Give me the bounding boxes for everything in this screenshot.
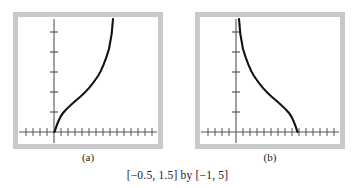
panel-a-plot xyxy=(13,12,163,149)
graph-panel-a xyxy=(13,12,163,149)
figure-container: (a) (b) [−0.5, 1.5] by [−1, 5] xyxy=(0,0,355,188)
panel-b-plot xyxy=(195,12,345,149)
viewing-window-caption: [−0.5, 1.5] by [−1, 5] xyxy=(0,168,355,182)
panel-a-caption: (a) xyxy=(13,150,163,164)
panel-b-caption: (b) xyxy=(195,150,345,164)
graph-panel-b xyxy=(195,12,345,149)
